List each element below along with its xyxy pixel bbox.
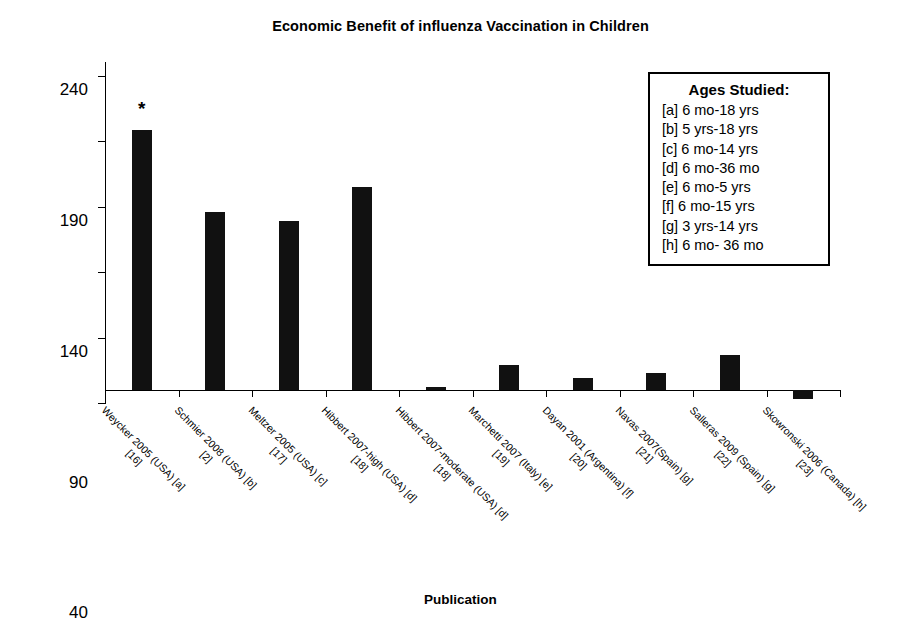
x-axis-title: Publication: [0, 592, 921, 607]
bar[interactable]: [720, 355, 740, 390]
bar-column[interactable]: [499, 62, 519, 404]
bar[interactable]: [646, 373, 666, 390]
bar[interactable]: [499, 365, 519, 390]
bar[interactable]: [573, 378, 593, 390]
legend-item: [d] 6 mo-36 mo: [660, 159, 818, 178]
legend-item-list: [a] 6 mo-18 yrs[b] 5 yrs-18 yrs[c] 6 mo-…: [660, 101, 818, 255]
bar-column[interactable]: [573, 62, 593, 404]
legend-item: [a] 6 mo-18 yrs: [660, 101, 818, 120]
bar[interactable]: [352, 187, 372, 390]
x-axis-label-line2: [23]: [751, 413, 860, 522]
x-axis-labels: Weycker 2005 (USA) [a][16]Schmier 2008 (…: [105, 404, 840, 594]
bar-column[interactable]: [352, 62, 372, 404]
legend-title: Ages Studied:: [660, 81, 818, 98]
y-axis-tick-label: 240: [60, 80, 88, 100]
legend-box: Ages Studied: [a] 6 mo-18 yrs[b] 5 yrs-1…: [648, 72, 830, 266]
legend-item: [h] 6 mo- 36 mo: [660, 236, 818, 255]
y-axis-tick-label: 90: [69, 473, 88, 493]
bar-column[interactable]: [279, 62, 299, 404]
y-axis-tick: –10: [98, 403, 105, 404]
legend-item: [e] 6 mo-5 yrs: [660, 178, 818, 197]
bar-column[interactable]: [205, 62, 225, 404]
legend-item: [g] 3 yrs-14 yrs: [660, 217, 818, 236]
bar[interactable]: [793, 390, 813, 399]
legend-item: [c] 6 mo-14 yrs: [660, 140, 818, 159]
y-axis-tick: 90: [98, 272, 105, 273]
x-axis-label: Skowronski 2006 (Canada) [h][23]: [751, 404, 869, 522]
y-axis-tick-label: 190: [60, 211, 88, 231]
y-axis-tick: 190: [98, 141, 105, 142]
x-axis-tick: [840, 390, 841, 397]
legend-item: [b] 5 yrs-18 yrs: [660, 120, 818, 139]
x-axis-label-line1: Skowronski 2006 (Canada) [h]: [761, 404, 869, 512]
bar-column[interactable]: [426, 62, 446, 404]
chart-figure: Economic Benefit of influenza Vaccinatio…: [0, 0, 921, 623]
legend-item: [f] 6 mo-15 yrs: [660, 197, 818, 216]
x-axis-label-line2: [16]: [89, 413, 178, 502]
bar[interactable]: [205, 212, 225, 390]
bar[interactable]: [426, 387, 446, 390]
bar[interactable]: [132, 130, 152, 390]
significance-asterisk: *: [138, 99, 145, 118]
chart-title: Economic Benefit of influenza Vaccinatio…: [0, 18, 921, 34]
bar[interactable]: [279, 221, 299, 390]
y-axis-tick-label: 140: [60, 342, 88, 362]
y-axis-tick: 240: [98, 76, 105, 77]
bar-column[interactable]: *: [132, 62, 152, 404]
y-axis-tick: 40: [98, 338, 105, 339]
y-axis-tick: 140: [98, 207, 105, 208]
